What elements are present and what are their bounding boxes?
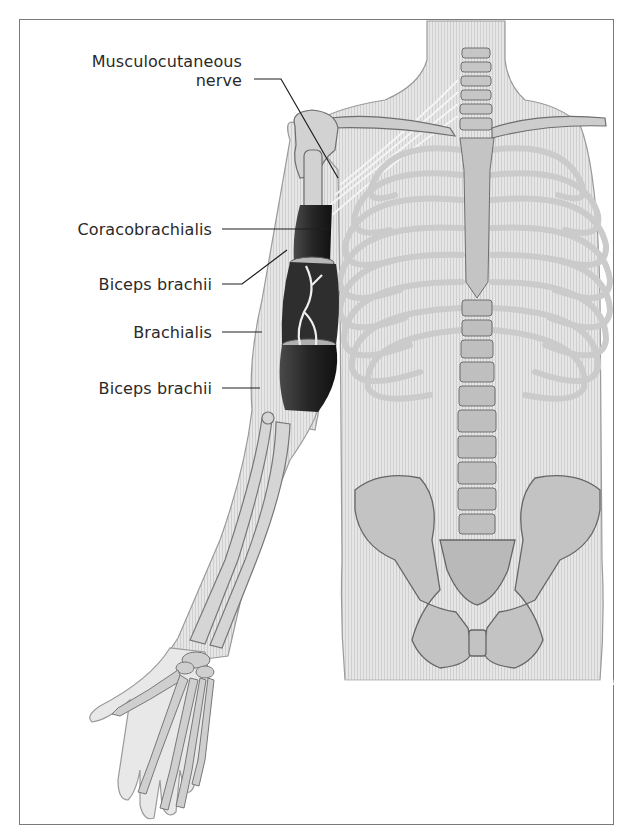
label-musculocutaneous-nerve: Musculocutaneous nerve [70, 52, 242, 90]
coracobrachialis-muscle [294, 205, 332, 262]
biceps-brachii-muscle [280, 345, 338, 412]
label-biceps-brachii-upper: Biceps brachii [40, 275, 212, 294]
forearm-bones [190, 412, 290, 648]
label-brachialis: Brachialis [40, 323, 212, 342]
label-biceps-brachii-lower: Biceps brachii [40, 379, 212, 398]
vertebral-column [458, 300, 496, 534]
anatomy-illustration [0, 0, 639, 838]
label-coracobrachialis: Coracobrachialis [40, 220, 212, 239]
label-musculocutaneous-line1: Musculocutaneous [70, 52, 242, 71]
label-musculocutaneous-line2: nerve [70, 71, 242, 90]
